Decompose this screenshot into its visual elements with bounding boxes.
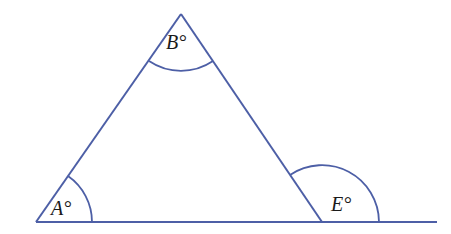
angle-a-arc (68, 176, 92, 222)
side-bc (181, 14, 322, 222)
angle-e-label: E° (330, 193, 351, 215)
angle-a-label: A° (49, 197, 71, 219)
triangle-diagram: A° B° E° (0, 0, 451, 234)
side-ab (36, 14, 181, 222)
angle-b-label: B° (166, 31, 186, 53)
angle-b-arc (149, 61, 213, 71)
